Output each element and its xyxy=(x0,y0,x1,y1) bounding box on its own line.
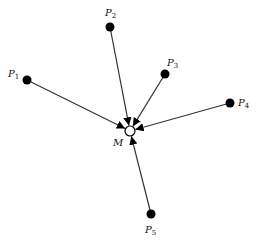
label-p5: P5 xyxy=(144,224,156,237)
arrow-p1-to-m xyxy=(27,80,125,129)
point-p4 xyxy=(226,99,235,108)
label-p2: P2 xyxy=(104,7,116,20)
label-p4: P4 xyxy=(237,97,250,110)
center-label-m: M xyxy=(112,137,124,148)
arrow-p5-to-m xyxy=(131,136,151,214)
arrow-p3-to-m xyxy=(133,74,165,126)
label-p1: P1 xyxy=(7,68,19,81)
arrow-p4-to-m xyxy=(135,103,230,130)
vector-diagram: P1P2P3P4P5 M xyxy=(0,0,256,244)
center-point-m xyxy=(125,126,135,136)
arrow-p2-to-m xyxy=(110,27,129,126)
point-p1 xyxy=(23,76,32,85)
point-p2 xyxy=(106,23,115,32)
label-p3: P3 xyxy=(166,57,178,70)
point-p3 xyxy=(161,70,170,79)
point-p5 xyxy=(147,210,156,219)
arrow-lines xyxy=(27,27,230,214)
